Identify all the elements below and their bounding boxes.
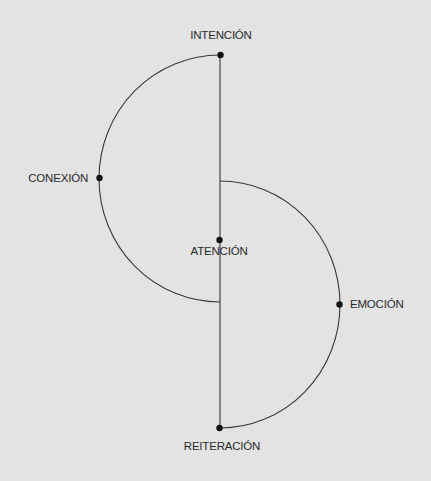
right-semicircle-arc	[220, 181, 340, 428]
label-reiteracion: REITERACIÓN	[184, 441, 260, 453]
node-dot-emocion	[336, 301, 342, 307]
label-intencion: INTENCIÓN	[190, 30, 251, 42]
left-semicircle-arc	[99, 55, 220, 302]
label-atencion: ATENCIÓN	[191, 246, 248, 258]
node-dot-atencion	[216, 237, 222, 243]
node-dot-intencion	[217, 52, 223, 58]
node-dot-reiteracion	[216, 425, 222, 431]
diagram-svg	[0, 0, 431, 481]
label-emocion: EMOCIÓN	[350, 299, 404, 311]
label-conexion: CONEXIÓN	[28, 173, 88, 185]
node-dot-conexion	[96, 175, 102, 181]
diagram-canvas: INTENCIÓN CONEXIÓN ATENCIÓN EMOCIÓN REIT…	[0, 0, 431, 481]
